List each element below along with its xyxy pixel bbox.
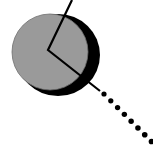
ray-dot — [108, 98, 113, 103]
ray-dot — [142, 132, 148, 138]
geometric-diagram-svg — [0, 0, 153, 148]
ray-dot — [101, 91, 106, 96]
figure-canvas — [0, 0, 153, 148]
ray-dot — [128, 118, 133, 123]
ray-dot — [115, 105, 120, 110]
ray-dot — [122, 112, 127, 117]
ray-dot — [135, 125, 141, 131]
